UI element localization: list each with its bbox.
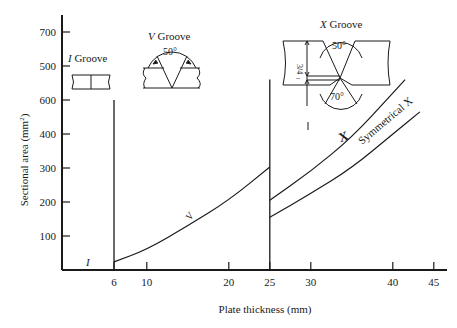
x-groove-angle-top: 50°	[332, 40, 346, 51]
x-tick-label: 20	[223, 276, 235, 288]
x-groove-diagram: X Groove 3/4 – 50° 70°	[283, 18, 390, 109]
y-tick-label: 700	[40, 26, 57, 38]
x-groove-angle-bottom: 70°	[330, 91, 344, 102]
x-tick-label: 25	[264, 276, 276, 288]
x-tick-label: 10	[141, 276, 153, 288]
x-axis-label: Plate thickness (mm)	[219, 303, 312, 316]
i-groove-diagram: I Groove	[67, 52, 110, 89]
series-label-x: X	[337, 127, 352, 145]
x-tick-label: 30	[305, 276, 317, 288]
y-tick-label: 500	[40, 60, 57, 72]
v-groove-diagram: V Groove 50°	[143, 30, 200, 88]
groove-boundaries	[114, 80, 270, 270]
y-tick-label: 600	[40, 94, 57, 106]
x-groove-dim-bottom: –	[295, 73, 301, 82]
series-label-i: I	[85, 256, 91, 268]
x-tick-label: 45	[428, 276, 440, 288]
y-ticks: 100200300400600500700	[40, 26, 71, 242]
y-tick-label: 300	[40, 162, 57, 174]
x-tick-label: 40	[387, 276, 399, 288]
y-tick-label: 100	[40, 230, 57, 242]
x-tick-label: 6	[111, 276, 117, 288]
axes	[62, 15, 447, 270]
y-tick-label: 400	[40, 128, 57, 140]
groove-sectional-area-chart: 100200300400600500700 6102025304045 I V …	[0, 0, 457, 328]
svg-text:I Groove: I Groove	[67, 52, 108, 64]
y-tick-label: 200	[40, 196, 57, 208]
y-axis-label: Sectional area (mm2)	[18, 113, 31, 206]
svg-text:50°: 50°	[163, 46, 177, 57]
svg-text:X Groove: X Groove	[319, 18, 363, 30]
svg-text:V Groove: V Groove	[148, 30, 191, 42]
series-label-v: V	[183, 209, 197, 222]
x-ticks: 6102025304045	[111, 262, 440, 288]
curves	[114, 80, 420, 262]
